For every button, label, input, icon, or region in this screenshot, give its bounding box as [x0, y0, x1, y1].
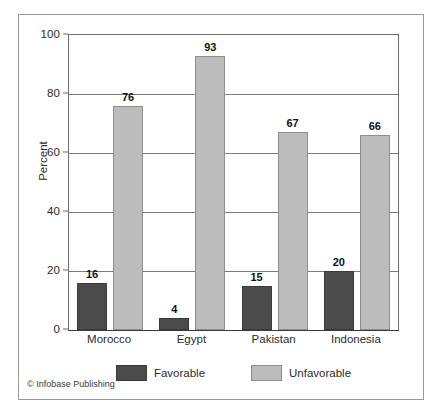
plot-area: 167649315672066	[68, 34, 399, 331]
y-tick-label: 40	[47, 205, 60, 217]
y-tick-label: 80	[47, 87, 60, 99]
chart-legend: FavorableUnfavorable	[68, 360, 399, 386]
x-category-label-egypt: Egypt	[177, 333, 206, 345]
bar-indonesia-unfavorable	[360, 135, 390, 330]
x-category-label-pakistan: Pakistan	[252, 333, 296, 345]
bar-value-label: 15	[251, 271, 263, 283]
legend-item-favorable: Favorable	[116, 365, 205, 381]
bar-morocco-unfavorable	[113, 106, 143, 330]
publisher-credit: © Infobase Publishing	[27, 379, 115, 389]
x-category-label-morocco: Morocco	[87, 333, 131, 345]
bar-value-label: 93	[204, 41, 216, 53]
legend-swatch-unfavorable	[251, 365, 282, 381]
legend-swatch-favorable	[116, 365, 147, 381]
y-tick-label: 100	[41, 28, 61, 40]
gridline	[69, 94, 398, 95]
figure-frame: Percent 020406080100 167649315672066 Mor…	[18, 14, 424, 400]
y-tick-label: 0	[54, 323, 61, 335]
legend-label-favorable: Favorable	[154, 367, 205, 379]
legend-label-unfavorable: Unfavorable	[289, 367, 351, 379]
bar-value-label: 66	[369, 120, 381, 132]
bar-value-label: 20	[333, 256, 345, 268]
y-tick-label: 60	[47, 146, 60, 158]
y-tick-label: 20	[47, 264, 60, 276]
x-axis: MoroccoEgyptPakistanIndonesia	[68, 333, 399, 353]
bar-value-label: 67	[287, 117, 299, 129]
bar-egypt-unfavorable	[195, 56, 225, 330]
bar-value-label: 76	[122, 91, 134, 103]
bar-egypt-favorable	[159, 318, 189, 330]
bar-pakistan-favorable	[242, 286, 272, 330]
bar-pakistan-unfavorable	[278, 132, 308, 330]
x-category-label-indonesia: Indonesia	[331, 333, 381, 345]
bar-value-label: 16	[86, 268, 98, 280]
legend-item-unfavorable: Unfavorable	[251, 365, 351, 381]
bar-indonesia-favorable	[324, 271, 354, 330]
y-axis: 020406080100	[19, 34, 68, 331]
bar-value-label: 4	[171, 303, 177, 315]
bar-morocco-favorable	[77, 283, 107, 330]
